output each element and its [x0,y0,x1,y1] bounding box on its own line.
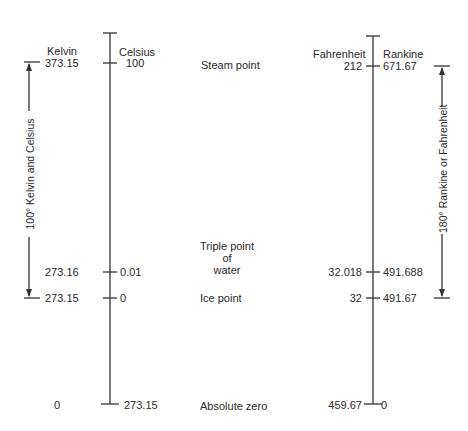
arrow-down-icon [439,289,445,297]
arrow-up-icon [439,67,445,75]
point-label: Triple point of water [190,240,264,276]
right-span-label: 180° Rankine or Fahrenheit [437,106,449,234]
kelvin-value: 0 [54,399,60,411]
fahrenheit-header: Fahrenheit [313,48,366,60]
fahrenheit-value: 32 [320,292,362,304]
kelvin-value: 273.15 [45,292,79,304]
rankine-value: 0 [381,399,387,411]
point-label: Ice point [200,292,242,304]
kelvin-header: Kelvin [47,45,77,57]
arrow-up-icon [26,63,32,71]
kelvin-value: 373.15 [45,57,79,69]
fahrenheit-value: 459.67 [310,399,362,411]
point-label: Steam point [201,59,260,71]
fahrenheit-value: 32.018 [300,266,362,278]
celsius-value: 0.01 [120,266,141,278]
rankine-value: 671.67 [383,60,417,72]
rankine-value: 491.67 [383,292,417,304]
arrow-down-icon [26,289,32,297]
kelvin-value: 273.16 [45,266,79,278]
celsius-value: 0 [120,292,126,304]
left-span-label: 100° Kelvin and Celsius [24,111,36,237]
point-label: Absolute zero [200,400,267,412]
celsius-value: 273.15 [124,399,158,411]
rankine-header: Rankine [383,48,423,60]
celsius-value: 100 [126,57,144,69]
rankine-value: 491.688 [383,266,423,278]
fahrenheit-value: 212 [320,60,362,72]
